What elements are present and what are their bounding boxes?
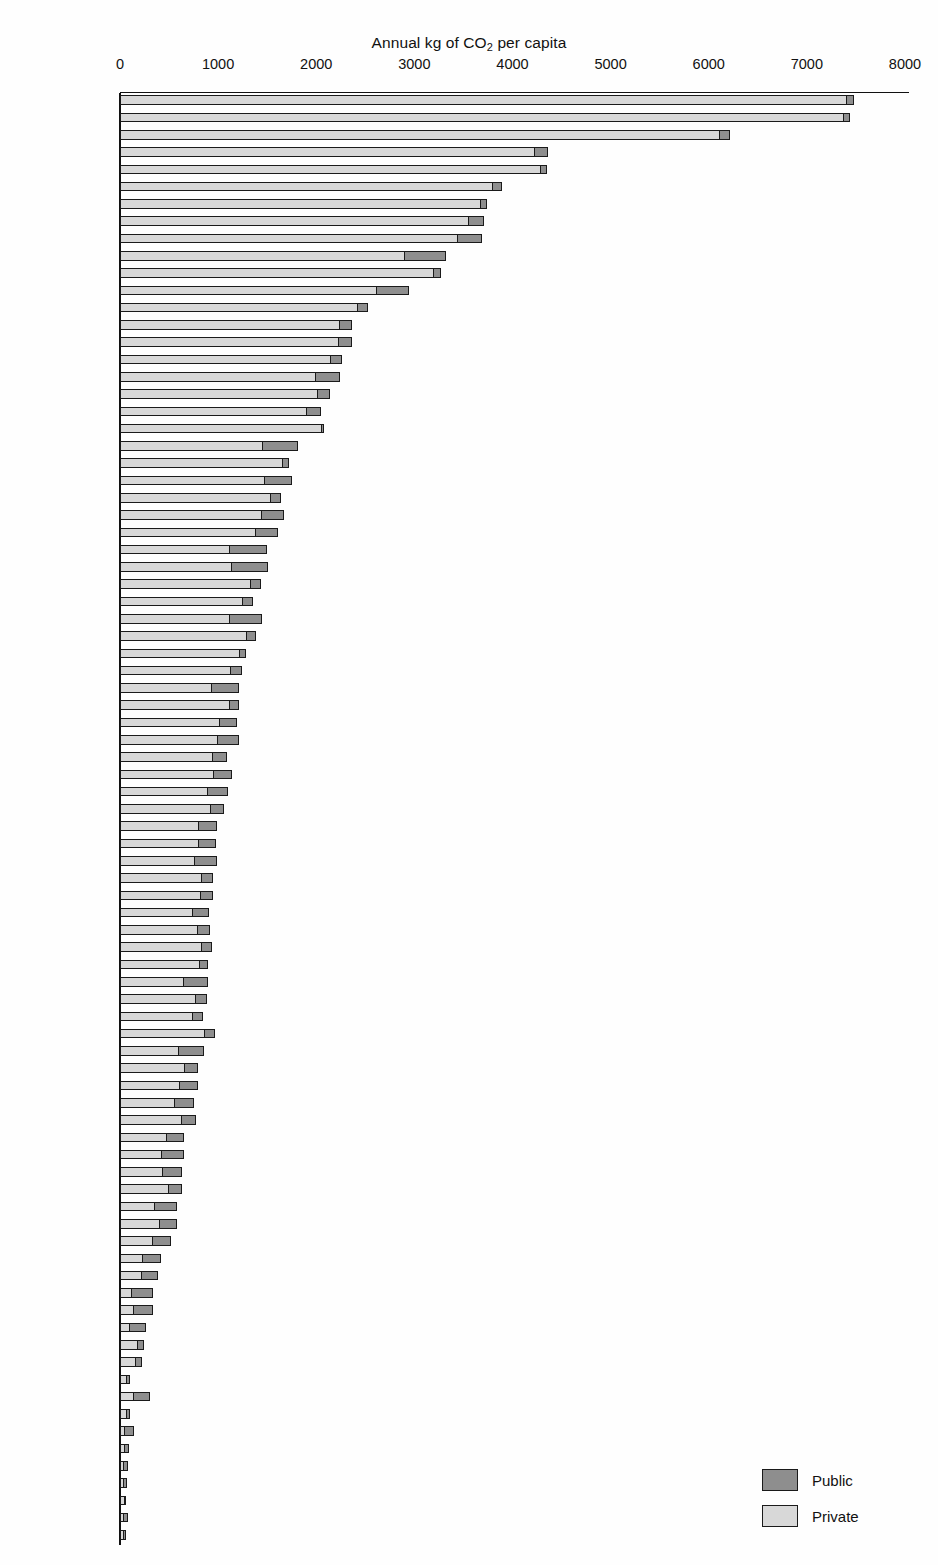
stacked-bar[interactable] — [120, 389, 330, 399]
bar-row[interactable]: Hamburg — [120, 525, 905, 539]
bar-row[interactable]: Glasgow — [120, 681, 905, 695]
stacked-bar[interactable] — [120, 891, 213, 901]
stacked-bar[interactable] — [120, 1254, 161, 1264]
bar-row[interactable]: Helsinki — [120, 1061, 905, 1075]
bar-row[interactable]: Taipei — [120, 1182, 905, 1196]
bar-row[interactable]: Tehran — [120, 1338, 905, 1352]
stacked-bar[interactable] — [120, 476, 292, 486]
stacked-bar[interactable] — [120, 407, 321, 417]
bar-row[interactable]: Cape Town — [120, 1251, 905, 1265]
bar-row[interactable]: Graz — [120, 871, 905, 885]
bar-row[interactable]: Frankfurt — [120, 473, 905, 487]
bar-row[interactable]: Madrid — [120, 819, 905, 833]
bar-row[interactable]: Harare — [120, 1268, 905, 1282]
bar-row[interactable]: Oslo — [120, 577, 905, 591]
stacked-bar[interactable] — [120, 1478, 127, 1488]
bar-row[interactable]: Phoenix — [120, 197, 905, 211]
stacked-bar[interactable] — [120, 1081, 198, 1091]
stacked-bar[interactable] — [120, 441, 298, 451]
stacked-bar[interactable] — [120, 113, 850, 123]
bar-row[interactable]: Tel Aviv — [120, 940, 905, 954]
stacked-bar[interactable] — [120, 1409, 130, 1419]
stacked-bar[interactable] — [120, 1513, 128, 1523]
bar-row[interactable]: Newcastle — [120, 802, 905, 816]
stacked-bar[interactable] — [120, 1063, 198, 1073]
stacked-bar[interactable] — [120, 1426, 134, 1436]
bar-row[interactable]: Brisbane — [120, 335, 905, 349]
bar-row[interactable]: Sydney — [120, 370, 905, 384]
stacked-bar[interactable] — [120, 770, 232, 780]
stacked-bar[interactable] — [120, 908, 209, 918]
stacked-bar[interactable] — [120, 251, 446, 261]
bar-row[interactable]: Manchester — [120, 1009, 905, 1023]
stacked-bar[interactable] — [120, 787, 228, 797]
bar-row[interactable]: London — [120, 784, 905, 798]
stacked-bar[interactable] — [120, 821, 217, 831]
bar-row[interactable]: Washington — [120, 214, 905, 228]
stacked-bar[interactable] — [120, 95, 854, 105]
stacked-bar[interactable] — [120, 1167, 182, 1177]
bar-row[interactable]: Cracow — [120, 1303, 905, 1317]
stacked-bar[interactable] — [120, 1392, 150, 1402]
bar-row[interactable]: New York — [120, 249, 905, 263]
bar-row[interactable]: Curitiba — [120, 1217, 905, 1231]
bar-row[interactable]: Amsterdam — [120, 957, 905, 971]
bar-row[interactable]: Barcelona — [120, 1234, 905, 1248]
stacked-bar[interactable] — [120, 1496, 126, 1506]
bar-row[interactable]: Vancouver — [120, 352, 905, 366]
stacked-bar[interactable] — [120, 1375, 130, 1385]
bar-row[interactable]: Riyadh — [120, 421, 905, 435]
stacked-bar[interactable] — [120, 1357, 142, 1367]
bar-row[interactable]: Paris — [120, 836, 905, 850]
bar-row[interactable]: Johannesburg — [120, 975, 905, 989]
stacked-bar[interactable] — [120, 510, 284, 520]
stacked-bar[interactable] — [120, 631, 256, 641]
stacked-bar[interactable] — [120, 1288, 153, 1298]
bar-row[interactable]: Ottawa — [120, 387, 905, 401]
stacked-bar[interactable] — [120, 614, 262, 624]
stacked-bar[interactable] — [120, 1323, 146, 1333]
stacked-bar[interactable] — [120, 1444, 129, 1454]
stacked-bar[interactable] — [120, 1340, 144, 1350]
stacked-bar[interactable] — [120, 458, 289, 468]
stacked-bar[interactable] — [120, 320, 352, 330]
bar-row[interactable]: Lyon — [120, 698, 905, 712]
stacked-bar[interactable] — [120, 355, 342, 365]
stacked-bar[interactable] — [120, 562, 268, 572]
stacked-bar[interactable] — [120, 337, 352, 347]
bar-row[interactable]: Dakar — [120, 1424, 905, 1438]
bar-row[interactable]: Sapporo — [120, 1026, 905, 1040]
stacked-bar[interactable] — [120, 130, 730, 140]
stacked-bar[interactable] — [120, 735, 239, 745]
stacked-bar[interactable] — [120, 199, 487, 209]
bar-row[interactable]: Stuttgart — [120, 560, 905, 574]
stacked-bar[interactable] — [120, 700, 239, 710]
bar-row[interactable]: Bogota — [120, 1286, 905, 1300]
stacked-bar[interactable] — [120, 372, 340, 382]
stacked-bar[interactable] — [120, 268, 441, 278]
bar-row[interactable]: San Francisco — [120, 128, 905, 142]
bar-row[interactable]: Seoul — [120, 1165, 905, 1179]
stacked-bar[interactable] — [120, 1029, 215, 1039]
bar-row[interactable]: Tokyo — [120, 1044, 905, 1058]
bar-row[interactable]: Atlanta — [120, 93, 905, 107]
bar-row[interactable]: Brussels — [120, 439, 905, 453]
stacked-bar[interactable] — [120, 942, 212, 952]
bar-row[interactable]: Munich — [120, 542, 905, 556]
bar-row[interactable]: Melbourne — [120, 300, 905, 314]
stacked-bar[interactable] — [120, 1202, 177, 1212]
stacked-bar[interactable] — [120, 545, 267, 555]
stacked-bar[interactable] — [120, 752, 227, 762]
stacked-bar[interactable] — [120, 1046, 204, 1056]
bar-row[interactable]: Athens — [120, 992, 905, 1006]
stacked-bar[interactable] — [120, 493, 281, 503]
bar-row[interactable]: Beijing — [120, 1407, 905, 1421]
bar-row[interactable]: Chicago — [120, 231, 905, 245]
stacked-bar[interactable] — [120, 1184, 182, 1194]
bar-row[interactable]: Kuala Lumpur — [120, 1113, 905, 1127]
bar-row[interactable]: Budapest — [120, 1199, 905, 1213]
bar-row[interactable]: Nantes — [120, 629, 905, 643]
stacked-bar[interactable] — [120, 1012, 203, 1022]
stacked-bar[interactable] — [120, 1133, 184, 1143]
bar-row[interactable]: Berne — [120, 888, 905, 902]
